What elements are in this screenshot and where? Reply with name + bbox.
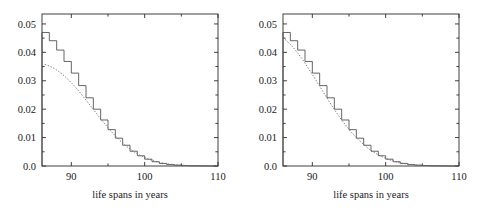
y-tick-label: 0.02 (18, 104, 36, 115)
plot-frame (283, 14, 459, 166)
y-tick-label: 0.05 (18, 19, 36, 30)
x-tick-label: 100 (378, 171, 394, 182)
x-tick-label: 110 (451, 171, 466, 182)
y-tick-label: 0.04 (18, 47, 37, 58)
x-axis-caption: life spans in years (333, 189, 409, 200)
panel-right-canvas: 901001100.00.010.020.030.040.05life span… (240, 0, 481, 210)
y-tick-label: 0.01 (18, 132, 36, 143)
panel-left: 901001100.00.010.020.030.040.05life span… (0, 0, 240, 210)
y-tick-label: 0.02 (259, 104, 277, 115)
y-tick-label: 0.0 (264, 161, 277, 172)
figure-root: 901001100.00.010.020.030.040.05life span… (0, 0, 481, 210)
plot-frame (42, 14, 218, 166)
y-tick-label: 0.05 (259, 19, 277, 30)
x-tick-label: 90 (307, 171, 318, 182)
plot-area-left: 901001100.00.010.020.030.040.05life span… (18, 14, 226, 200)
panel-left-canvas: 901001100.00.010.020.030.040.05life span… (0, 0, 240, 210)
x-tick-label: 100 (137, 171, 153, 182)
panel-right: 901001100.00.010.020.030.040.05life span… (240, 0, 480, 210)
y-tick-label: 0.04 (259, 47, 278, 58)
y-tick-label: 0.0 (23, 161, 36, 172)
y-tick-label: 0.03 (259, 75, 277, 86)
plot-area-right: 901001100.00.010.020.030.040.05life span… (259, 14, 467, 200)
empirical-step-density-line (42, 32, 218, 166)
y-tick-label: 0.03 (18, 75, 36, 86)
x-axis-caption: life spans in years (92, 189, 168, 200)
y-tick-label: 0.01 (259, 132, 277, 143)
empirical-step-density-line (283, 32, 459, 166)
x-tick-label: 110 (210, 171, 225, 182)
x-tick-label: 90 (66, 171, 77, 182)
